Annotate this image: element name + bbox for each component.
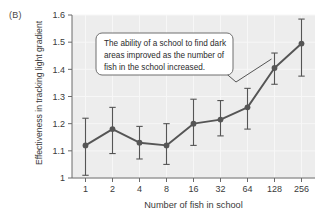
y-tick-label: 1 [60,173,65,183]
x-tick-label: 4 [137,184,142,194]
y-tick-label: 1.1 [52,146,65,156]
data-point [83,143,89,149]
data-point [164,143,170,149]
x-tick-label: 64 [242,184,252,194]
x-tick-label: 8 [164,184,169,194]
data-point [191,121,197,127]
y-axis-ticks: 11.11.21.31.41.51.6 [52,10,72,183]
x-tick-label: 32 [215,184,225,194]
x-axis-ticks: 1248163264128256 [83,178,309,194]
data-point [110,126,116,132]
y-tick-label: 1.5 [52,37,65,47]
x-tick-label: 16 [188,184,198,194]
data-point [137,140,143,146]
data-point [272,65,278,71]
x-tick-label: 256 [294,184,309,194]
data-point [245,104,251,110]
x-tick-label: 128 [267,184,282,194]
data-point [299,41,305,47]
data-point [218,117,224,123]
callout-line-1: The ability of a school to find dark [104,39,227,48]
callout-line-3: fish in the school increased. [104,63,205,72]
x-tick-label: 2 [110,184,115,194]
y-tick-label: 1.4 [52,65,65,75]
y-tick-label: 1.6 [52,10,65,20]
figure-panel-b: (B) Effectiveness in tracking light grad… [0,0,326,220]
line-chart: 11.11.21.31.41.51.6 1248163264128256 The… [0,0,326,220]
x-tick-label: 1 [83,184,88,194]
y-tick-label: 1.3 [52,92,65,102]
y-tick-label: 1.2 [52,119,65,129]
callout-line-2: areas improved as the number of [104,51,225,60]
